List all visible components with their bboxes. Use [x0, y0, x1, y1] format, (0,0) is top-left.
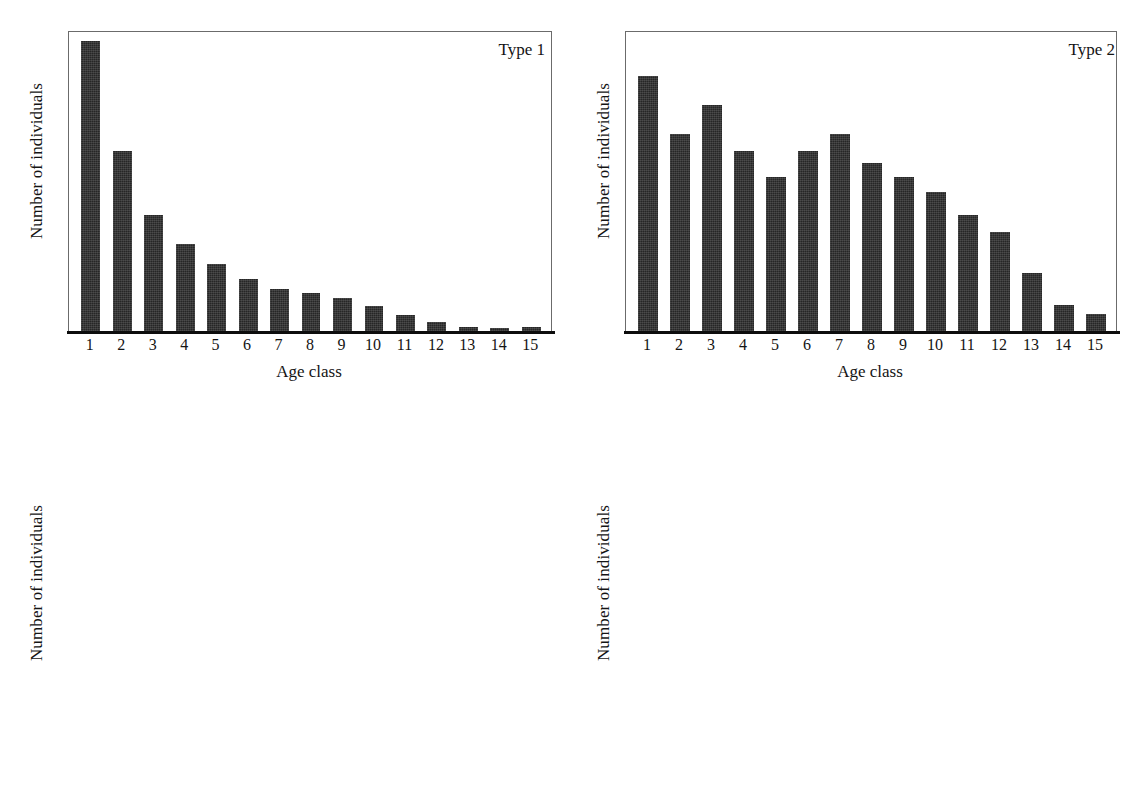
x-axis-line [624, 331, 1120, 334]
bar[interactable] [81, 41, 100, 331]
bar-slot [888, 32, 920, 331]
bar-slot [1080, 32, 1112, 331]
bar[interactable] [302, 293, 321, 331]
bar-slot [696, 32, 728, 331]
x-tick-label: 6 [791, 336, 823, 354]
bar-slot [664, 32, 696, 331]
bar-slot [390, 32, 421, 331]
x-tick-label: 1 [631, 336, 663, 354]
bar[interactable] [239, 279, 258, 331]
panel-title: Type 1 [499, 40, 546, 60]
x-tick-label: 2 [105, 336, 136, 354]
bar[interactable] [113, 151, 132, 331]
bar-slot [728, 32, 760, 331]
x-axis-label: Age class [625, 362, 1115, 382]
bar-slot [169, 32, 200, 331]
y-axis-label-text: Number of individuals [594, 83, 614, 239]
y-axis-label-text: Number of individuals [594, 504, 614, 660]
bar[interactable] [1086, 314, 1105, 331]
x-tick-label: 13 [1015, 336, 1047, 354]
chart-panel-1: Number of individualsType 11234567891011… [0, 0, 567, 390]
x-tick-label: 4 [168, 336, 199, 354]
bar-slot [856, 32, 888, 331]
chart-panel-2: Number of individualsType 21234567891011… [567, 0, 1137, 390]
x-tick-label: 12 [983, 336, 1015, 354]
bar[interactable] [427, 322, 446, 331]
bar-slot [484, 32, 515, 331]
bar[interactable] [702, 105, 721, 331]
figure-multi-panel-bar-charts: Number of individualsType 11234567891011… [0, 0, 1137, 787]
bar-slot [516, 32, 547, 331]
x-tick-label: 7 [823, 336, 855, 354]
bar-slot [106, 32, 137, 331]
bar[interactable] [894, 177, 913, 331]
x-axis-tick-labels: 123456789101112131415 [68, 336, 550, 354]
y-axis-label: Number of individuals [24, 0, 50, 330]
x-tick-label: 11 [389, 336, 420, 354]
bar[interactable] [207, 264, 226, 331]
plot-area [68, 31, 552, 331]
x-tick-label: 8 [855, 336, 887, 354]
bar-series [69, 32, 551, 331]
x-tick-label: 5 [200, 336, 231, 354]
bar[interactable] [958, 215, 977, 331]
bar-slot [75, 32, 106, 331]
bar[interactable] [990, 232, 1009, 331]
x-tick-label: 3 [137, 336, 168, 354]
x-tick-label: 13 [452, 336, 483, 354]
x-tick-label: 4 [727, 336, 759, 354]
bar[interactable] [1022, 273, 1041, 331]
bar[interactable] [396, 315, 415, 331]
bar-slot [327, 32, 358, 331]
bar[interactable] [734, 151, 753, 331]
x-tick-label: 10 [919, 336, 951, 354]
bar-slot [421, 32, 452, 331]
bar[interactable] [365, 306, 384, 331]
bar[interactable] [926, 192, 945, 331]
bar[interactable] [144, 215, 163, 331]
bar-slot [952, 32, 984, 331]
bar[interactable] [766, 177, 785, 331]
x-axis-tick-labels: 123456789101112131415 [625, 336, 1115, 354]
panel-title: Type 2 [1069, 40, 1116, 60]
bar-slot [1016, 32, 1048, 331]
bar-slot [760, 32, 792, 331]
x-tick-label: 11 [951, 336, 983, 354]
y-axis-label-text: Number of individuals [27, 504, 47, 660]
x-tick-label: 3 [695, 336, 727, 354]
x-axis-line [67, 331, 555, 334]
y-axis-label-text: Number of individuals [27, 83, 47, 239]
bar-slot [138, 32, 169, 331]
bar[interactable] [830, 134, 849, 331]
x-axis-label: Age class [68, 362, 550, 382]
x-tick-label: 1 [74, 336, 105, 354]
bar[interactable] [333, 298, 352, 331]
bar-slot [632, 32, 664, 331]
x-tick-label: 12 [420, 336, 451, 354]
bar[interactable] [1054, 305, 1073, 331]
bar-slot [1048, 32, 1080, 331]
x-tick-label: 15 [515, 336, 546, 354]
x-tick-label: 7 [263, 336, 294, 354]
bar-slot [453, 32, 484, 331]
bar[interactable] [638, 76, 657, 331]
bar-slot [295, 32, 326, 331]
bar[interactable] [176, 244, 195, 331]
x-tick-label: 9 [887, 336, 919, 354]
x-tick-label: 5 [759, 336, 791, 354]
chart-panel-3: Number of individualsType 31234567891011… [0, 390, 567, 787]
bar[interactable] [270, 289, 289, 331]
bar-slot [920, 32, 952, 331]
bar[interactable] [798, 151, 817, 331]
x-tick-label: 14 [1047, 336, 1079, 354]
bar-slot [358, 32, 389, 331]
bar-slot [264, 32, 295, 331]
bar-slot [824, 32, 856, 331]
bar-slot [201, 32, 232, 331]
y-axis-label: Number of individuals [24, 408, 50, 757]
x-tick-label: 8 [294, 336, 325, 354]
x-tick-label: 10 [357, 336, 388, 354]
bar[interactable] [670, 134, 689, 331]
y-axis-label: Number of individuals [591, 0, 617, 330]
bar[interactable] [862, 163, 881, 331]
